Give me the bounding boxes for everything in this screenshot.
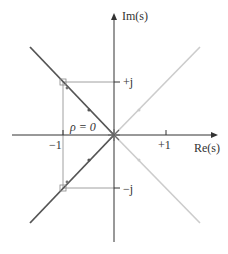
imag-axis-label: Im(s) [122,10,148,22]
locus-arrow-icon [138,159,141,162]
tick-label-plus-one: +1 [158,139,171,151]
root-locus-plot [0,0,228,254]
locus-arrow-icon [87,108,90,111]
tick-label-minus-one: −1 [49,139,62,151]
imag-axis-arrow-icon [111,13,117,20]
real-axis-label: Re(s) [194,142,220,154]
tick-label-minus-j: −j [123,183,133,195]
locus-arrow-icon [138,109,141,112]
locus-arrow-icon [66,181,69,184]
origin-pole-icon [108,129,120,141]
rho-annotation: ρ = 0 [70,121,96,133]
tick-label-plus-j: +j [123,76,133,88]
locus-arrow-icon [87,158,90,161]
locus-arrow-icon [66,87,69,90]
real-axis-arrow-icon [211,132,218,138]
